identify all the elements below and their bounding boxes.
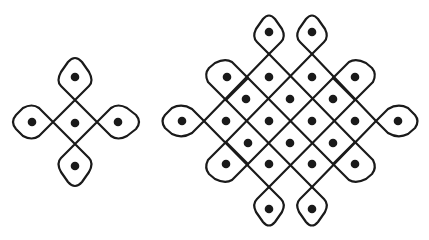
large-kolam	[163, 16, 418, 226]
kolam-figure	[0, 0, 429, 240]
kolam-dot	[71, 73, 80, 82]
kolam-dot	[308, 117, 317, 126]
kolam-dot	[265, 73, 274, 82]
kolam-dot	[265, 28, 274, 37]
kolam-dot	[394, 117, 403, 126]
kolam-dot	[265, 205, 274, 214]
kolam-dot	[265, 117, 274, 126]
kolam-dot	[329, 139, 338, 148]
kolam-dot	[286, 139, 295, 148]
kolam-dot	[242, 95, 251, 104]
kolam-dot	[308, 28, 317, 37]
kolam-dot	[351, 117, 360, 126]
kolam-dot	[308, 160, 317, 169]
kolam-dot	[114, 118, 123, 127]
kolam-dot	[71, 119, 80, 128]
kolam-dot	[178, 117, 187, 126]
kolam-dot	[222, 160, 231, 169]
kolam-dot	[222, 117, 231, 126]
kolam-dot	[286, 95, 295, 104]
small-kolam	[13, 58, 139, 186]
kolam-dot	[28, 118, 37, 127]
kolam-dot	[71, 162, 80, 171]
kolam-dot	[351, 160, 360, 169]
kolam-dot	[329, 95, 338, 104]
kolam-dot	[265, 160, 274, 169]
kolam-dot	[308, 73, 317, 82]
kolam-dot	[223, 73, 232, 82]
kolam-dot	[351, 73, 360, 82]
kolam-dot	[308, 205, 317, 214]
small-kolam-dots	[28, 73, 123, 171]
kolam-dot	[244, 139, 253, 148]
